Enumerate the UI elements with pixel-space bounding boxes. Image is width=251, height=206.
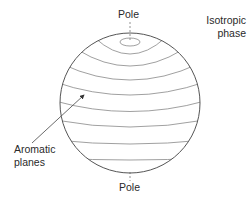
aromatic-label-line1: Aromatic [14,143,55,156]
top-pole-label: Pole [118,8,139,21]
aromatic-planes-arrow [32,95,84,143]
isotropic-label-line2: phase [196,27,246,40]
bottom-pole-label: Pole [119,181,140,194]
aromatic-planes-label: Aromatic planes [14,143,55,169]
isotropic-label-line1: Isotropic [196,14,246,27]
isotropic-phase-label: Isotropic phase [196,14,246,40]
aromatic-label-line2: planes [14,156,55,169]
